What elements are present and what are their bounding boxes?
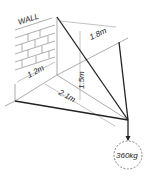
load-arrow-icon — [126, 136, 131, 141]
dim-label-1-5m: 1.5m — [77, 71, 86, 89]
wall-edges — [5, 17, 128, 120]
statics-diagram: WALL 1.2m 1.8m 1.5m 2.1m 360kg — [0, 0, 149, 183]
load-label: 360kg — [116, 151, 138, 160]
wall-label: WALL — [17, 12, 40, 27]
dim-label-1-8m: 1.8m — [88, 26, 108, 42]
